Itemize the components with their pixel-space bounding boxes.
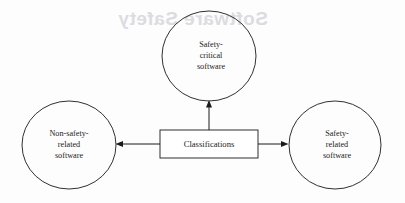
edge-to-non-safety-related <box>116 141 161 147</box>
node-safety-related-software[interactable]: Safety- related software <box>289 101 381 189</box>
node-label-line-3: software <box>323 151 352 160</box>
node-safety-critical-software[interactable]: Safety- critical software <box>162 11 256 101</box>
node-label-line-3: software <box>197 62 226 71</box>
node-label-line-1: Safety- <box>199 40 223 49</box>
node-label-line-3: software <box>55 151 84 160</box>
arrow-head-left-icon <box>116 141 124 147</box>
classifications-box-label: Classifications <box>184 139 235 149</box>
node-label-line-1: Safety- <box>325 129 349 138</box>
classifications-diagram-svg: Safety- critical software Non-safety- re… <box>0 0 405 203</box>
node-label-line-2: related <box>326 140 348 149</box>
node-classifications[interactable]: Classifications <box>160 130 258 158</box>
edge-to-safety-critical <box>206 100 212 130</box>
node-label-line-2: related <box>58 140 80 149</box>
arrow-head-right-icon <box>281 141 289 147</box>
node-label-line-2: critical <box>200 51 223 60</box>
node-label-line-1: Non-safety- <box>49 129 88 138</box>
diagram-canvas: Software Safety Safety- critical softwar… <box>0 0 405 203</box>
edge-to-safety-related <box>258 141 289 147</box>
node-non-safety-related-software[interactable]: Non-safety- related software <box>22 101 116 189</box>
